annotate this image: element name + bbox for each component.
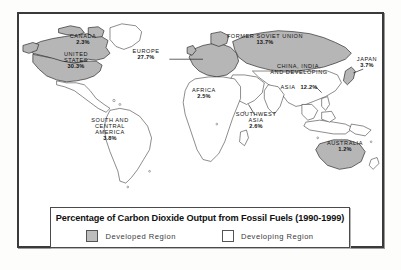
- philippines-shape: [322, 97, 330, 111]
- island-speck: [113, 99, 115, 101]
- legend-item-developing-label: Developing Region: [241, 232, 314, 241]
- island-speck: [149, 170, 151, 172]
- australia-shape: [316, 140, 365, 169]
- legend-title: Percentage of Carbon Dioxide Output from…: [51, 213, 349, 223]
- new-zealand-shape: [369, 158, 379, 170]
- island-speck: [119, 103, 121, 105]
- legend-item-developed: Developed Region: [86, 230, 175, 242]
- legend-panel: Percentage of Carbon Dioxide Output from…: [50, 207, 350, 248]
- developing-swatch-icon: [222, 230, 234, 242]
- indochina-shape: [302, 104, 318, 120]
- former-soviet-union-shape: [233, 31, 352, 71]
- arctic-islands-shape: [59, 26, 85, 36]
- legend-item-developing: Developing Region: [222, 230, 314, 242]
- greenland-shape: [110, 24, 142, 50]
- island-speck: [216, 123, 218, 125]
- new-guinea-shape: [349, 124, 371, 136]
- legend-item-developed-label: Developed Region: [105, 232, 175, 241]
- europe-shape: [189, 43, 238, 76]
- swasia-leader-line: [248, 104, 254, 114]
- developed-swatch-icon: [86, 230, 98, 242]
- madagascar-shape: [240, 130, 249, 146]
- map-figure: CANADA 2.3% UNITED STATES 30.3% EUROPE 2…: [0, 0, 401, 270]
- indonesia-shape: [304, 120, 353, 134]
- scandinavia-shape: [211, 32, 229, 47]
- island-speck: [370, 141, 372, 143]
- south-america-shape: [104, 108, 151, 183]
- legend-items: Developed Region Developing Region: [51, 230, 349, 242]
- mexico-central-america-shape: [57, 81, 110, 112]
- island-speck: [317, 137, 319, 139]
- africa-shape: [183, 77, 240, 162]
- japan-shape: [343, 67, 355, 85]
- island-speck: [127, 186, 129, 188]
- island-speck: [244, 111, 246, 113]
